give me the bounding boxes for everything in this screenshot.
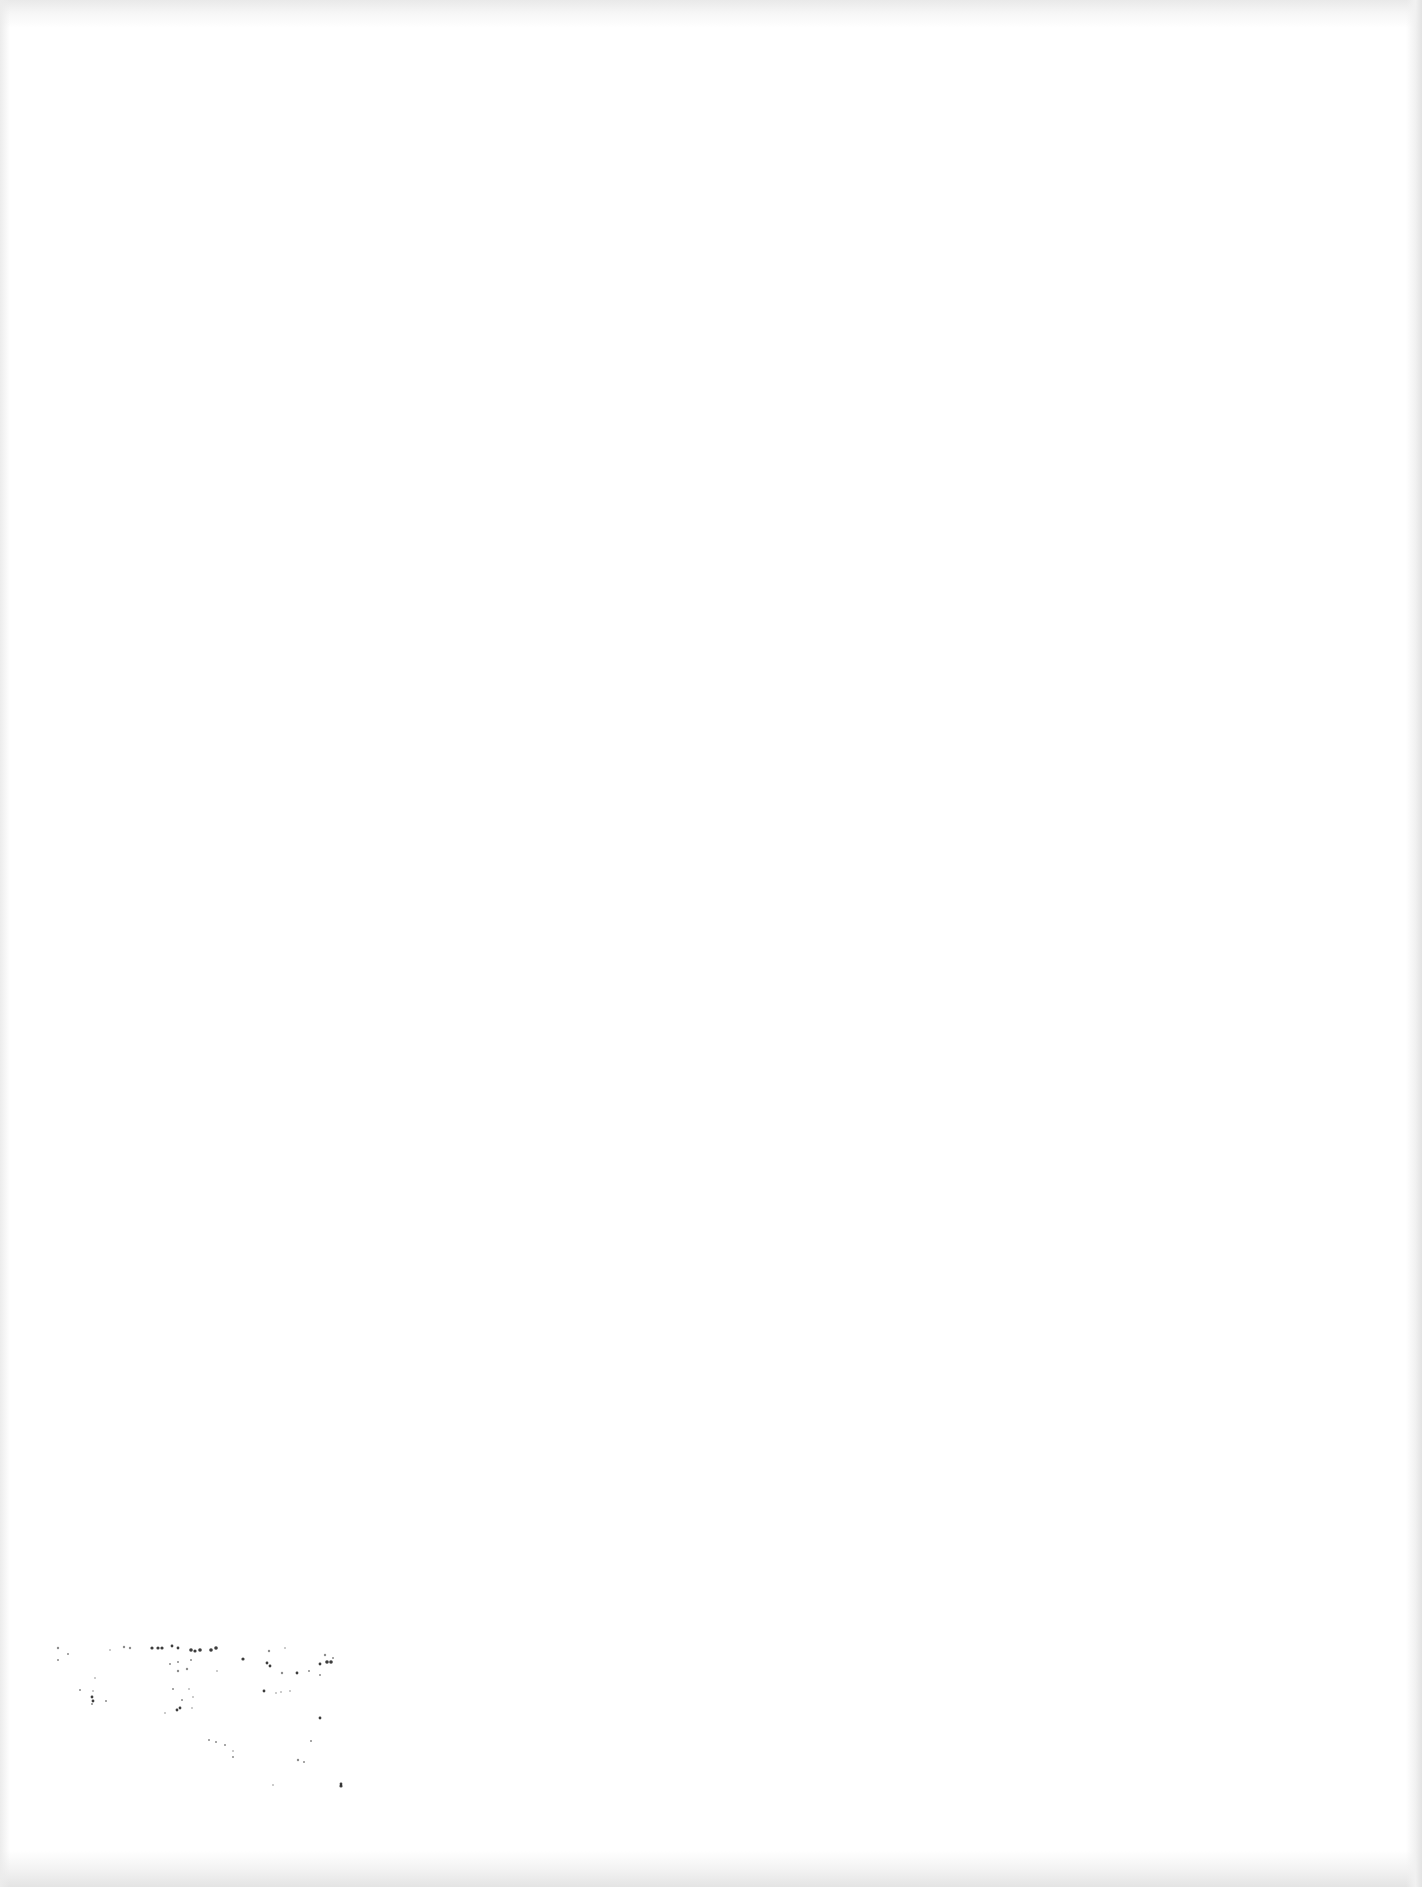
noise-dot xyxy=(79,1689,81,1691)
noise-dot xyxy=(319,1717,322,1720)
noise-dot xyxy=(281,1672,283,1674)
noise-dot xyxy=(319,1663,322,1666)
scanner-noise-speckles xyxy=(0,0,1422,1887)
noise-dot xyxy=(164,1712,166,1714)
noise-dot xyxy=(190,1659,192,1661)
noise-dot xyxy=(325,1660,329,1664)
noise-dot xyxy=(297,1759,299,1761)
noise-dot xyxy=(67,1653,69,1655)
noise-dot xyxy=(232,1750,234,1752)
noise-dot xyxy=(123,1646,125,1648)
noise-dot xyxy=(91,1696,94,1699)
noise-dot xyxy=(303,1761,305,1763)
noise-dot xyxy=(329,1660,333,1664)
noise-dot xyxy=(289,1690,291,1692)
noise-dot xyxy=(172,1688,174,1690)
noise-dot xyxy=(105,1700,107,1702)
scan-edge-shadow-top xyxy=(0,0,1422,28)
noise-dot xyxy=(263,1690,266,1693)
noise-dot xyxy=(169,1663,171,1665)
noise-dot xyxy=(296,1672,299,1675)
noise-dot xyxy=(214,1646,218,1650)
noise-dot xyxy=(280,1691,282,1693)
noise-dot xyxy=(308,1670,310,1672)
noise-dot xyxy=(198,1648,202,1652)
scan-edge-shadow-bottom xyxy=(0,1851,1422,1887)
noise-dot xyxy=(215,1741,217,1743)
noise-dot xyxy=(150,1646,153,1649)
noise-dot xyxy=(272,1784,274,1786)
noise-dot xyxy=(94,1677,96,1679)
noise-dot xyxy=(266,1662,269,1665)
noise-dot xyxy=(332,1657,334,1659)
noise-dot xyxy=(177,1670,179,1672)
noise-dot xyxy=(156,1646,159,1649)
noise-dot xyxy=(310,1740,312,1742)
noise-dot xyxy=(129,1647,131,1649)
noise-dot xyxy=(186,1668,188,1670)
noise-dot xyxy=(160,1646,163,1649)
noise-dot xyxy=(191,1707,193,1709)
noise-dot xyxy=(192,1696,194,1698)
noise-dot xyxy=(92,1700,95,1703)
noise-dot xyxy=(177,1647,180,1650)
noise-dot xyxy=(189,1648,193,1652)
noise-dot xyxy=(57,1659,59,1661)
noise-dot xyxy=(324,1654,326,1656)
noise-dot xyxy=(179,1707,182,1710)
noise-dot xyxy=(284,1647,286,1649)
noise-dot xyxy=(319,1674,321,1676)
noise-dot xyxy=(224,1744,226,1746)
noise-dot xyxy=(339,1784,342,1787)
noise-dot xyxy=(177,1661,179,1663)
noise-dot xyxy=(188,1688,190,1690)
scanned-page xyxy=(0,0,1422,1887)
noise-dot xyxy=(92,1690,94,1692)
noise-dot xyxy=(181,1699,183,1701)
noise-dot xyxy=(109,1649,111,1651)
scan-edge-shadow-left xyxy=(0,0,10,1887)
scan-edge-shadow-right xyxy=(1406,0,1422,1887)
noise-dot xyxy=(176,1709,179,1712)
noise-dot xyxy=(209,1648,213,1652)
noise-dot xyxy=(232,1756,234,1758)
noise-dot xyxy=(91,1703,93,1705)
noise-dot xyxy=(268,1650,270,1652)
noise-dot xyxy=(171,1645,174,1648)
noise-dot xyxy=(269,1665,272,1668)
noise-dot xyxy=(275,1692,277,1694)
noise-dot xyxy=(241,1657,244,1660)
noise-dot xyxy=(193,1649,196,1652)
noise-dot xyxy=(208,1739,210,1741)
noise-dot xyxy=(340,1783,343,1786)
noise-dot xyxy=(216,1670,218,1672)
noise-dot xyxy=(57,1647,59,1649)
